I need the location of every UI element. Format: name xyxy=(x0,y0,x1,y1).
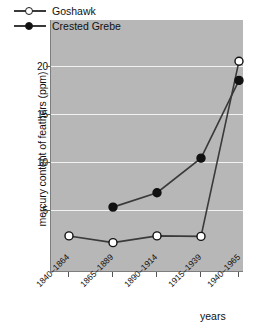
data-point xyxy=(153,232,161,240)
series-line xyxy=(69,61,239,242)
x-tick-mark xyxy=(156,272,157,277)
x-tick-mark xyxy=(68,272,69,277)
data-point xyxy=(109,203,117,211)
chart-legend: Goshawk Crested Grebe xyxy=(14,3,121,33)
data-point xyxy=(197,232,205,240)
data-point xyxy=(153,189,161,197)
filled-circle-marker-icon xyxy=(14,21,46,31)
data-series-layer xyxy=(51,20,244,272)
plot-area xyxy=(50,20,243,272)
data-point xyxy=(109,239,117,247)
data-point xyxy=(235,76,243,84)
open-circle-marker-icon xyxy=(14,6,46,16)
legend-label: Crested Grebe xyxy=(52,20,121,32)
data-point xyxy=(65,232,73,240)
data-point xyxy=(235,57,243,65)
legend-entry-goshawk: Goshawk xyxy=(14,3,121,18)
series-line xyxy=(113,80,239,207)
chart-figure: mercury content of feathers (ppm) 20 15 … xyxy=(0,0,263,330)
x-tick-mark xyxy=(200,272,201,277)
x-tick-mark xyxy=(238,272,239,277)
data-point xyxy=(197,154,205,162)
legend-entry-crested-grebe: Crested Grebe xyxy=(14,18,121,33)
x-tick-mark xyxy=(112,272,113,277)
x-axis-title: years xyxy=(200,310,226,322)
legend-label: Goshawk xyxy=(52,5,96,17)
